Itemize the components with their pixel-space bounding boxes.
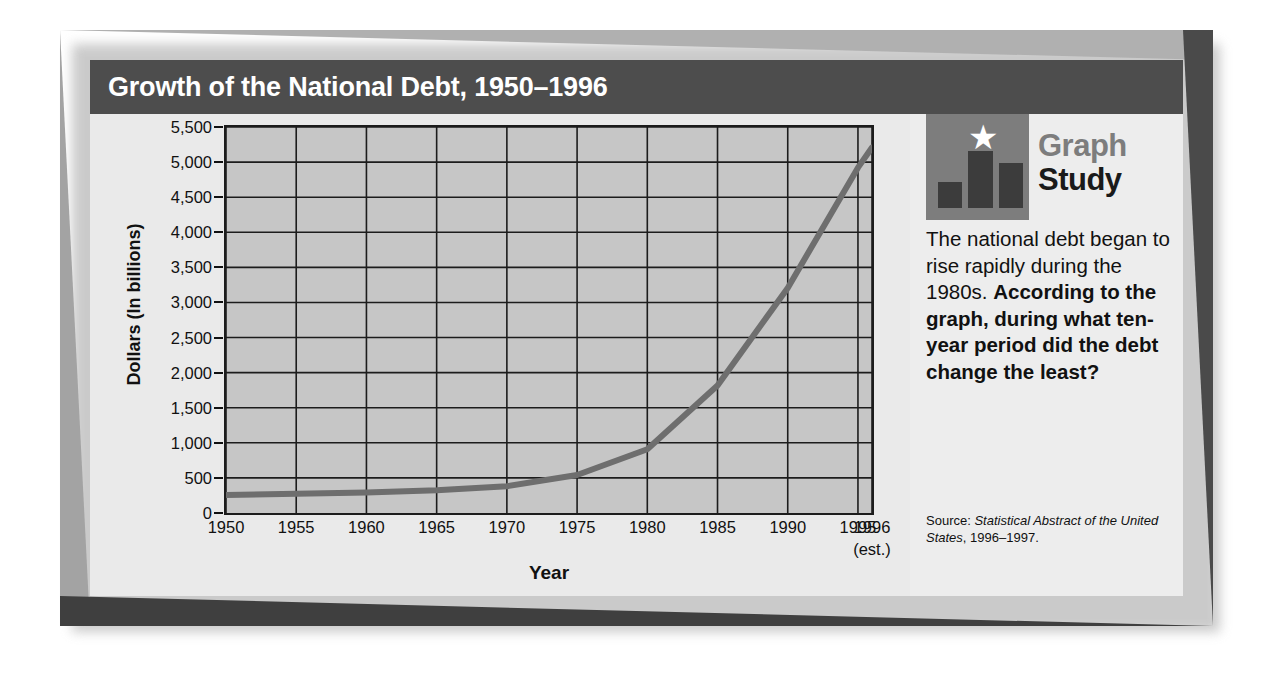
graph-study-figure: Growth of the National Debt, 1950–1996 D… xyxy=(0,0,1285,679)
y-tick-label: 3,000 xyxy=(138,293,212,312)
frame-bevel-right xyxy=(1183,30,1213,626)
y-tick-label: 0 xyxy=(138,504,212,523)
x-tick-label: 1965 xyxy=(418,518,455,537)
frame-bevel-left xyxy=(60,30,90,626)
y-tick-mark xyxy=(214,301,223,303)
x-axis-tick-labels: 1950195519601965197019751980198519901995… xyxy=(224,518,884,558)
star-icon: ★ xyxy=(968,120,998,154)
y-tick-label: 2,000 xyxy=(138,363,212,382)
y-tick-mark xyxy=(214,126,223,128)
logo-word-graph: Graph xyxy=(1038,128,1127,164)
y-tick-label: 4,500 xyxy=(138,188,212,207)
logo-bar-icon-1 xyxy=(938,182,962,208)
chart-panel: Dollars (In billions) 05001,0001,5002,00… xyxy=(90,114,910,596)
panel-body-text: The national debt began to rise rapidly … xyxy=(926,226,1170,385)
x-tick-label: 1960 xyxy=(348,518,385,537)
y-tick-mark xyxy=(214,512,223,514)
title-bar: Growth of the National Debt, 1950–1996 xyxy=(90,60,1183,114)
frame-bevel-bottom xyxy=(60,596,1213,626)
x-tick-label: 1980 xyxy=(629,518,666,537)
debt-line-chart xyxy=(226,127,872,513)
x-tick-label: 1985 xyxy=(699,518,736,537)
logo-bar-icon-3 xyxy=(999,163,1023,208)
y-tick-label: 500 xyxy=(138,468,212,487)
y-tick-mark xyxy=(214,161,223,163)
y-tick-mark xyxy=(214,442,223,444)
x-tick-label: 1970 xyxy=(489,518,526,537)
x-tick-label: 1950 xyxy=(208,518,245,537)
x-tick-label: 1990 xyxy=(769,518,806,537)
x-tick-label: 1955 xyxy=(278,518,315,537)
graph-study-logo: ★ Graph Study xyxy=(920,114,1183,220)
y-tick-mark xyxy=(214,407,223,409)
beveled-frame: Growth of the National Debt, 1950–1996 D… xyxy=(60,30,1213,626)
source-citation: Source: Statistical Abstract of the Unit… xyxy=(926,512,1162,546)
y-tick-label: 5,500 xyxy=(138,118,212,137)
x-axis-label: Year xyxy=(224,562,874,584)
frame-inner-face: Growth of the National Debt, 1950–1996 D… xyxy=(90,60,1183,596)
logo-bar-icon-2 xyxy=(968,151,993,208)
y-tick-mark xyxy=(214,231,223,233)
y-tick-label: 5,000 xyxy=(138,153,212,172)
y-tick-mark xyxy=(214,372,223,374)
y-tick-label: 4,000 xyxy=(138,223,212,242)
y-tick-label: 1,500 xyxy=(138,398,212,417)
y-axis-tick-labels: 05001,0001,5002,0002,5003,0003,5004,0004… xyxy=(128,114,212,596)
frame-bevel-top xyxy=(60,30,1213,60)
y-tick-mark xyxy=(214,337,223,339)
logo-badge: ★ xyxy=(926,114,1029,220)
y-tick-mark xyxy=(214,477,223,479)
logo-word-study: Study xyxy=(1038,162,1122,198)
source-suffix: , 1996–1997. xyxy=(963,530,1039,545)
graph-study-side-panel: ★ Graph Study The national debt began to… xyxy=(910,114,1183,596)
source-prefix: Source: xyxy=(926,513,974,528)
y-tick-mark xyxy=(214,266,223,268)
y-tick-label: 2,500 xyxy=(138,328,212,347)
x-tick-label: 1975 xyxy=(559,518,596,537)
y-tick-label: 1,000 xyxy=(138,433,212,452)
x-tick-label: 1996 xyxy=(854,518,891,537)
plot-area xyxy=(224,125,874,515)
x-tick-sublabel-est: (est.) xyxy=(853,540,891,559)
y-tick-label: 3,500 xyxy=(138,258,212,277)
page-title: Growth of the National Debt, 1950–1996 xyxy=(108,72,608,103)
y-tick-mark xyxy=(214,196,223,198)
